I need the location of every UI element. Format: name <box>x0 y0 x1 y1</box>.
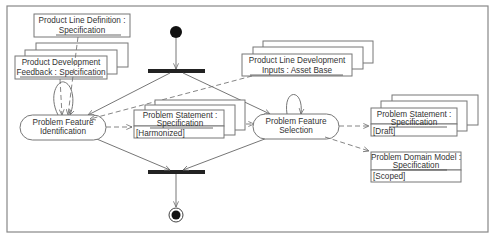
svg-text:Product Line Definition :: Product Line Definition : <box>39 16 126 25</box>
object-problem-statement-harmonized: Problem Statement : Specification [Harmo… <box>134 100 245 138</box>
svg-text:Feedback : Specification: Feedback : Specification <box>16 68 106 77</box>
svg-text:Identification: Identification <box>40 127 86 136</box>
object-product-line-definition: Product Line Definition : Specification <box>34 14 130 37</box>
svg-text:[Harmonized]: [Harmonized] <box>136 129 185 138</box>
object-problem-domain-model-scoped: Problem Domain Model : Specification [Sc… <box>371 152 461 182</box>
svg-text:Specification: Specification <box>59 26 106 35</box>
svg-text:Specification: Specification <box>157 119 204 128</box>
svg-text:Specification: Specification <box>391 118 438 127</box>
initial-node <box>170 26 182 38</box>
svg-text:Problem Feature: Problem Feature <box>33 118 94 127</box>
svg-text:Specification: Specification <box>393 161 440 170</box>
svg-text:[Scoped]: [Scoped] <box>373 172 405 181</box>
final-node <box>169 208 183 222</box>
svg-text:Selection: Selection <box>279 126 313 135</box>
join-bar <box>148 170 205 174</box>
svg-text:[Draft]: [Draft] <box>373 127 395 136</box>
svg-text:Product Development: Product Development <box>22 58 101 67</box>
activity-diagram: Product Line Definition : Specification … <box>0 0 493 237</box>
svg-text:Product Line Development: Product Line Development <box>249 56 346 65</box>
svg-text:Problem Feature: Problem Feature <box>266 117 327 126</box>
fork-bar <box>148 69 205 73</box>
activity-problem-feature-identification: Problem Feature Identification <box>20 115 106 140</box>
object-problem-statement-draft: Problem Statement : Specification [Draft… <box>371 95 478 136</box>
svg-text:Inputs : Asset Base: Inputs : Asset Base <box>262 66 333 75</box>
activity-problem-feature-selection: Problem Feature Selection <box>253 114 339 139</box>
